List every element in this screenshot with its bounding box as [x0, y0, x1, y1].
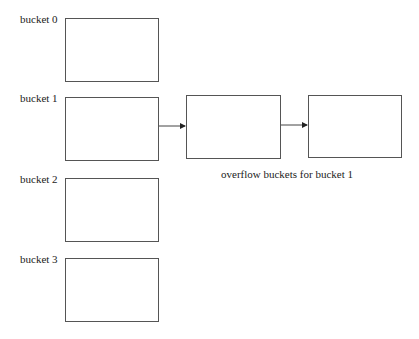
arrow-connectors [0, 0, 419, 339]
overflow-caption: overflow buckets for bucket 1 [221, 168, 353, 180]
